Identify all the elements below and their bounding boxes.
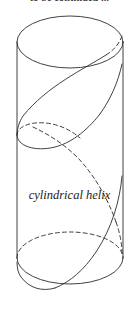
cylinder-bottom-ellipse-hidden-half bbox=[17, 232, 123, 258]
helix-hidden-segment-top bbox=[106, 36, 122, 55]
cylinder-top-ellipse bbox=[17, 16, 123, 68]
cylinder-diagram-svg bbox=[0, 0, 139, 310]
cylindrical-helix-figure: to be continued ... bbox=[0, 0, 139, 310]
helix-hidden-segment-bottom bbox=[116, 222, 122, 254]
helix-visible-segment-bottom-tail bbox=[17, 262, 55, 290]
helix-visible-segment-midloop bbox=[17, 114, 100, 149]
helix-hidden-segment-middle bbox=[33, 127, 116, 222]
helix-visible-segment-uprise bbox=[100, 64, 122, 114]
cylinder-group bbox=[17, 16, 123, 284]
cylindrical-helix-label: cylindrical helix bbox=[0, 188, 139, 203]
helix-group bbox=[17, 36, 122, 290]
